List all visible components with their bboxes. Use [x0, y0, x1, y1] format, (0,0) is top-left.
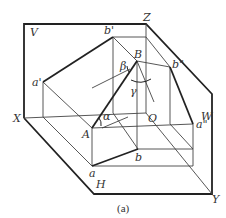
label-angle-alpha: α: [103, 111, 110, 122]
label-b-double-prime: b": [172, 59, 184, 70]
label-point-a-lower: a: [89, 168, 96, 179]
label-x-axis: X: [13, 113, 21, 124]
label-z-axis: Z: [143, 12, 151, 23]
label-point-b: B: [134, 49, 142, 60]
axis-lines: [24, 24, 212, 194]
label-a-double-prime: a": [196, 119, 208, 130]
label-v-plane: V: [30, 27, 38, 38]
label-point-b-lower: b: [135, 152, 142, 163]
label-h-plane: H: [96, 179, 106, 190]
label-a-prime: a': [32, 77, 42, 88]
label-b-prime: b': [104, 25, 114, 36]
line-segments: [43, 37, 193, 166]
figure-caption: (a): [117, 203, 129, 214]
label-origin-o: O: [148, 113, 157, 124]
label-angle-gamma: γ: [130, 86, 137, 97]
construction-lines: [43, 37, 193, 166]
projection-planes-outline: [24, 24, 212, 194]
label-y-axis: Y: [212, 194, 219, 205]
label-point-a: A: [82, 129, 90, 140]
label-angle-beta: β: [120, 61, 126, 72]
